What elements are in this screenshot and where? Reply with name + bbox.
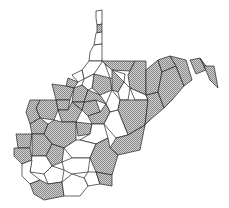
west-virginia-county-map	[0, 0, 229, 208]
county-raleigh	[62, 158, 90, 174]
county-layer	[14, 10, 218, 200]
county-morgan	[190, 58, 206, 74]
county-mcdowell	[30, 180, 64, 200]
county-harrison	[92, 74, 112, 95]
county-cabell	[16, 134, 32, 148]
county-wirt	[56, 100, 70, 110]
county-brooke	[97, 24, 102, 33]
county-jefferson	[204, 66, 218, 88]
county-ohio	[94, 32, 102, 45]
county-marshall	[89, 44, 102, 61]
county-hancock	[96, 10, 102, 25]
